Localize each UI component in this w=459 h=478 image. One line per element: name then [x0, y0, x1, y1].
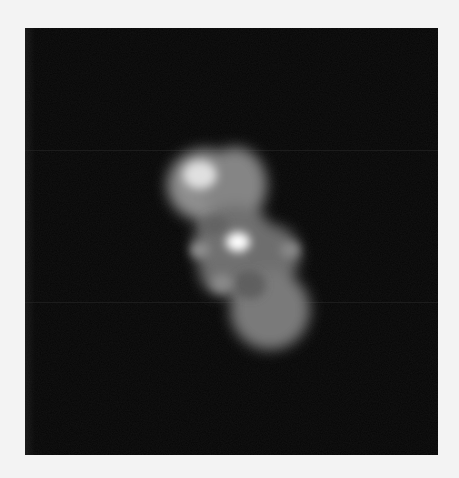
shadow-valley-0 — [234, 271, 266, 299]
shadow-valley-1 — [201, 215, 229, 235]
bright-spot-top — [183, 161, 217, 189]
faint-spot-bottom — [211, 274, 233, 292]
faint-spot-left — [190, 242, 209, 258]
faint-spot-right — [280, 242, 299, 258]
blob-image — [25, 28, 438, 455]
image-canvas — [0, 0, 459, 478]
dark-image-frame — [25, 28, 438, 455]
bright-spot-center — [226, 232, 250, 252]
